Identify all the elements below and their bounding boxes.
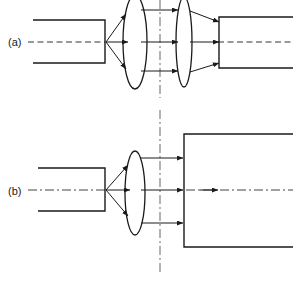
panel-b-lens-1 (125, 151, 145, 235)
panel-a-lens-1 (123, 0, 147, 89)
panel-b: (b) (8, 110, 293, 275)
panel-a-converging-ray-top (190, 11, 219, 22)
panel-b-label: (b) (8, 185, 21, 197)
optical-coupling-diagram: (a) (0, 0, 293, 283)
panel-a-converging-ray-bottom (190, 63, 219, 72)
panel-a-lens-2 (176, 0, 192, 87)
panel-a: (a) (8, 0, 293, 98)
panel-a-label: (a) (8, 36, 21, 48)
figure-root: (a) (0, 0, 293, 283)
